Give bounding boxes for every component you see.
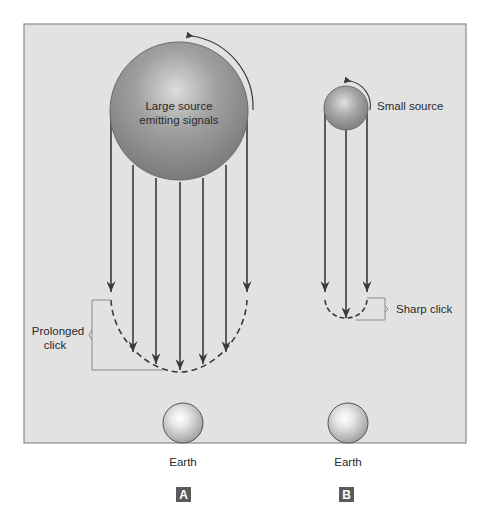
earth-sphere-a: [163, 403, 203, 443]
earth-label-b: Earth: [334, 456, 362, 468]
large-source-label-line2: emitting signals: [139, 114, 219, 126]
prolonged-click-label-line1: Prolonged: [32, 325, 84, 337]
panel-label-b: B: [342, 488, 351, 502]
small-source-sphere: [324, 86, 368, 130]
sharp-click-label: Sharp click: [396, 303, 452, 315]
signal-source-diagram: Large source emitting signals Prolonged …: [0, 0, 488, 524]
earth-sphere-b: [328, 403, 368, 443]
earth-label-a: Earth: [169, 456, 197, 468]
diagram-background: [24, 24, 466, 443]
large-source-label-line1: Large source: [145, 100, 212, 112]
small-source-label: Small source: [377, 100, 443, 112]
prolonged-click-label-line2: click: [44, 339, 67, 351]
panel-label-a: A: [179, 488, 188, 502]
